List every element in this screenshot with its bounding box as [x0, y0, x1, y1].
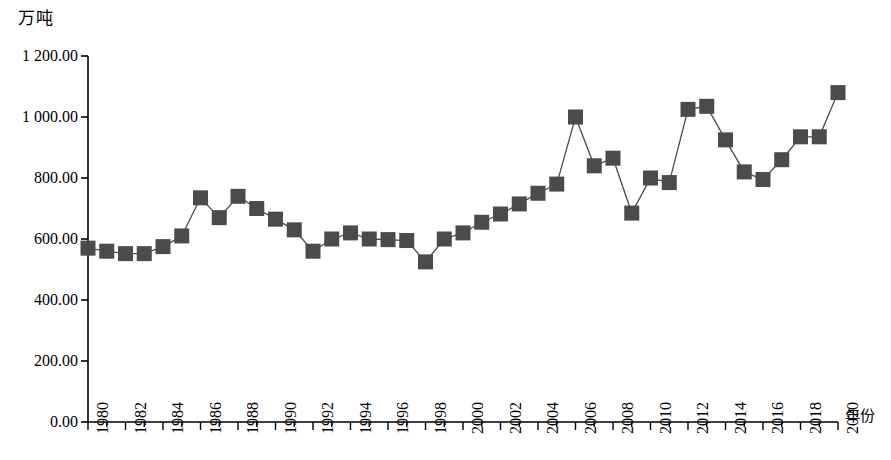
- x-axis-tick-label: 2014: [732, 402, 750, 434]
- x-axis-tick-label: 2008: [619, 402, 637, 434]
- x-axis-tick-label: 2010: [657, 402, 675, 434]
- x-axis-tick-label: 2012: [694, 402, 712, 434]
- x-axis-tick-label: 1992: [319, 402, 337, 434]
- x-axis-tick-label: 1994: [357, 402, 375, 434]
- x-axis-tick-labels: 1980198219841986198819901992199419961998…: [0, 0, 891, 460]
- x-axis-tick-label: 1982: [132, 402, 150, 434]
- chart-figure: 万吨 年份 0.00200.00400.00600.00800.001 000.…: [0, 0, 891, 460]
- x-axis-tick-label: 2002: [507, 402, 525, 434]
- x-axis-tick-label: 1980: [94, 402, 112, 434]
- x-axis-tick-label: 2004: [544, 402, 562, 434]
- x-axis-tick-label: 1988: [244, 402, 262, 434]
- x-axis-tick-label: 1998: [432, 402, 450, 434]
- x-axis-tick-label: 1996: [394, 402, 412, 434]
- x-axis-tick-label: 2020: [844, 402, 862, 434]
- x-axis-tick-label: 1984: [169, 402, 187, 434]
- x-axis-tick-label: 1986: [207, 402, 225, 434]
- x-axis-tick-label: 2000: [469, 402, 487, 434]
- x-axis-tick-label: 2018: [807, 402, 825, 434]
- x-axis-tick-label: 2006: [582, 402, 600, 434]
- x-axis-tick-label: 1990: [282, 402, 300, 434]
- x-axis-tick-label: 2016: [769, 402, 787, 434]
